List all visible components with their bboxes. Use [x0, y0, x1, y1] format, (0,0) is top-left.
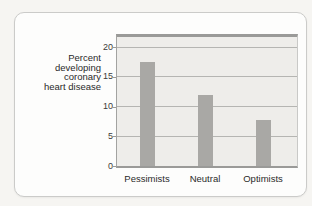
bar-neutral [198, 95, 213, 166]
y-tick [112, 136, 116, 137]
x-label-optimists: Optimists [223, 173, 303, 184]
gridline [117, 47, 297, 48]
plot-area [116, 34, 298, 168]
y-axis-title-line: heart disease [23, 82, 101, 92]
bar-optimists [256, 120, 271, 166]
y-tick [112, 47, 116, 48]
bar-pessimists [140, 62, 155, 166]
y-tick [112, 166, 116, 167]
y-tick-label: 20 [89, 42, 113, 53]
y-tick-label: 0 [89, 161, 113, 172]
y-tick [112, 77, 116, 78]
y-tick-label: 15 [89, 71, 113, 82]
page-background: { "colors": { "page_bg": "#f6f5f2", "car… [0, 0, 312, 206]
y-tick-label: 10 [89, 101, 113, 112]
y-tick-label: 5 [89, 131, 113, 142]
chart-card: Percent developing coronary heart diseas… [14, 12, 307, 197]
y-tick [112, 107, 116, 108]
